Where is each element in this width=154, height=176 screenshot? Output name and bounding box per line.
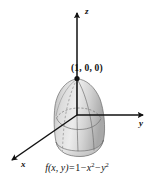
z-axis-label: z	[84, 6, 89, 16]
apex-point-label: (1, 0, 0)	[71, 63, 103, 74]
caption-term-y-exponent: 2	[106, 161, 109, 168]
figure-caption: f(x, y)=1−x2−y2	[0, 163, 154, 173]
apex-point-marker	[74, 76, 79, 81]
surface-body	[54, 79, 104, 156]
surface-plot-svg: z y x (1, 0, 0)	[0, 0, 154, 176]
figure-container: z y x (1, 0, 0) f(x, y)=1−x2−y2	[0, 0, 154, 176]
caption-minus-first: −	[80, 162, 87, 173]
y-axis-label: y	[138, 118, 144, 128]
paraboloid-surface	[54, 79, 104, 157]
caption-arguments: (x, y)	[48, 162, 69, 173]
